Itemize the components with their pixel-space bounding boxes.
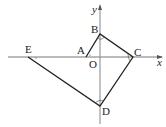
label-x: x (156, 56, 162, 68)
label-E: E (25, 43, 32, 55)
angle-dot-E (35, 57, 36, 58)
angle-dot-A (89, 54, 90, 55)
label-B: B (91, 23, 98, 35)
label-D: D (102, 105, 110, 117)
label-O: O (89, 58, 97, 70)
label-A: A (77, 44, 85, 56)
label-y: y (91, 3, 97, 15)
y-axis-arrow-icon (98, 4, 102, 10)
label-C: C (134, 46, 141, 58)
right-angle-mark-B (98, 37, 104, 39)
geometry-diagram: E A O B C D x y (0, 0, 166, 127)
